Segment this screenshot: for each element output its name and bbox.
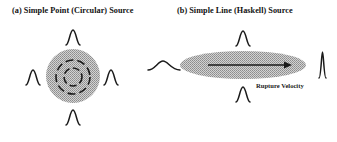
pulse-front-narrow-icon	[319, 52, 326, 78]
source-area-circle	[46, 49, 100, 103]
pulse-back-wide-icon	[148, 61, 180, 70]
pulse-right-icon	[104, 70, 118, 85]
rupture-velocity-label: Rupture Velocity	[256, 82, 304, 89]
pulse-bottom-b-icon	[236, 87, 250, 102]
pulse-left-icon	[26, 70, 40, 85]
pulse-bottom-icon	[66, 110, 80, 125]
pulse-top-icon	[66, 30, 80, 45]
diagram-canvas	[0, 0, 337, 142]
point-source	[46, 49, 100, 103]
pulse-top-b-icon	[236, 31, 250, 46]
line-source	[180, 51, 306, 79]
